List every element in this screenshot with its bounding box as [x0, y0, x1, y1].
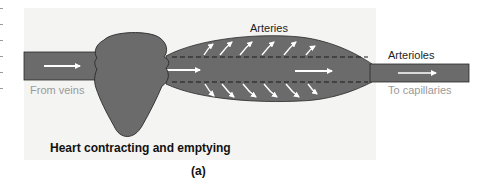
artery-vessel [166, 36, 372, 102]
label-arterioles: Arterioles [388, 49, 434, 61]
caption-heart-contracting: Heart contracting and emptying [50, 141, 231, 155]
label-to-capillaries: To capillaries [388, 84, 452, 96]
label-arteries: Arteries [250, 22, 288, 34]
panel-label: (a) [191, 164, 206, 178]
heart-shape [95, 33, 169, 137]
label-from-veins: From veins [30, 84, 84, 96]
